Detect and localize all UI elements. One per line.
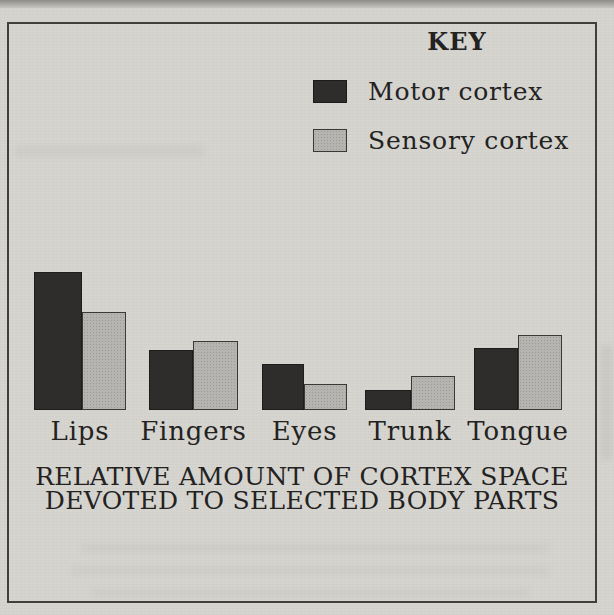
category-label-fingers: Fingers [140, 416, 247, 446]
bar-motor-lips [34, 272, 82, 410]
figure-frame: KEY Motor cortex Sensory cortex LipsFing… [7, 22, 597, 603]
category-label-eyes: Eyes [272, 416, 338, 446]
bar-motor-fingers [149, 350, 193, 410]
bar-motor-trunk [365, 390, 411, 410]
bar-sensory-eyes [304, 384, 347, 410]
category-label-lips: Lips [51, 416, 110, 446]
bleed-through-artifact [601, 345, 612, 460]
bar-sensory-fingers [193, 341, 238, 410]
bar-sensory-trunk [411, 376, 455, 410]
bar-sensory-tongue [518, 335, 562, 410]
category-label-tongue: Tongue [467, 416, 568, 446]
figure-caption: RELATIVE AMOUNT OF CORTEX SPACE DEVOTED … [9, 465, 595, 513]
figure-caption-line2: DEVOTED TO SELECTED BODY PARTS [9, 489, 595, 513]
bar-motor-eyes [262, 364, 304, 410]
scanned-textbook-page: KEY Motor cortex Sensory cortex LipsFing… [0, 0, 614, 615]
bar-motor-tongue [474, 348, 518, 410]
category-label-trunk: Trunk [368, 416, 451, 446]
page-edge-shadow [0, 0, 614, 8]
bar-sensory-lips [82, 312, 126, 410]
